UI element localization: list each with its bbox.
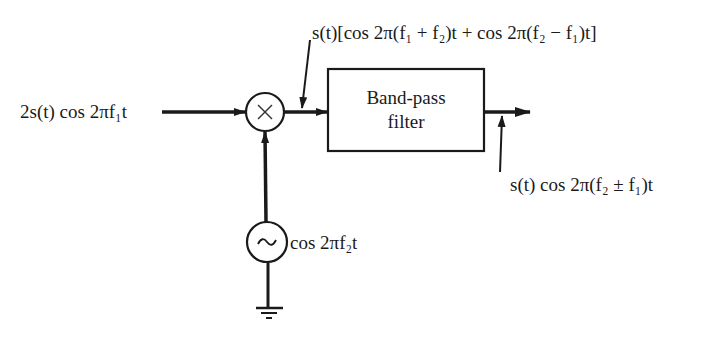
oscillator-icon	[247, 222, 287, 262]
output-pointer	[500, 116, 502, 172]
band-pass-filter-label: Band-pass filter	[328, 69, 484, 151]
multiplier-icon	[246, 93, 284, 131]
oscillator-to-mixer-arrow	[265, 132, 266, 222]
diagram-canvas	[0, 0, 720, 343]
oscillator-label: cos 2πf₂t	[290, 233, 357, 252]
mixer-output-label: s(t)[cos 2π(f₁ + f₂)t + cos 2π(f₂ − f₁)t…	[312, 23, 597, 42]
filter-label-line1: Band-pass	[366, 86, 445, 110]
filter-label-line2: filter	[388, 110, 425, 134]
output-signal-label: s(t) cos 2π(f₂ ± f₁)t	[510, 175, 653, 194]
input-signal-label: 2s(t) cos 2πf₁t	[20, 102, 127, 121]
mixer-output-pointer	[302, 40, 310, 108]
ground-icon	[256, 308, 283, 318]
